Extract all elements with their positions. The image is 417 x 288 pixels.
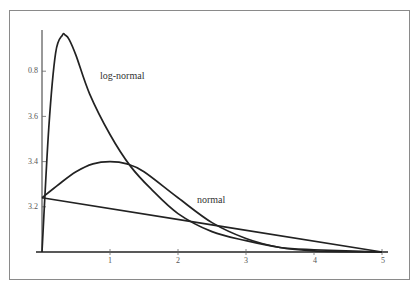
- y-tick-label: 0.8: [18, 66, 38, 75]
- normal-curve: [42, 162, 382, 252]
- x-tick-label: 4: [309, 256, 321, 265]
- normal-label: normal: [197, 194, 225, 205]
- x-tick-label: 3: [240, 256, 252, 265]
- x-tick-label: 2: [172, 256, 184, 265]
- y-tick-label: 3.4: [18, 157, 38, 166]
- exponential-line-curve: [42, 198, 382, 252]
- x-tick-label: 5: [377, 256, 389, 265]
- log-normal-curve: [42, 34, 382, 252]
- x-tick-label: 1: [104, 256, 116, 265]
- plot-area: [0, 0, 417, 288]
- y-tick-label: 3.2: [18, 202, 38, 211]
- y-tick-label: 3.6: [18, 112, 38, 121]
- curves: [42, 34, 382, 252]
- lognormal-label: log-normal: [100, 70, 144, 81]
